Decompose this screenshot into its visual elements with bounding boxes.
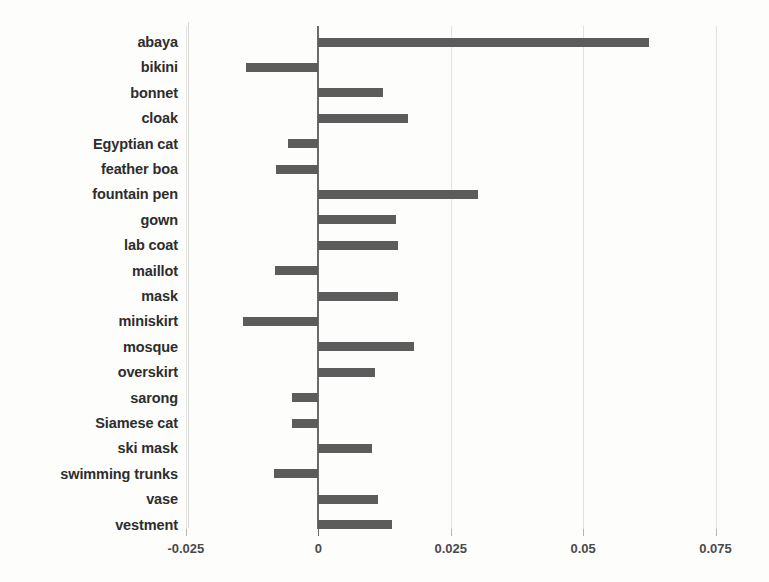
- x-tick-mark: [318, 529, 319, 536]
- bar: [275, 266, 318, 275]
- bar: [318, 444, 372, 453]
- gridline: [716, 26, 717, 529]
- x-tick-label: 0.025: [434, 541, 467, 556]
- category-label: maillot: [0, 264, 178, 279]
- gridline: [583, 26, 584, 529]
- category-label: vase: [0, 492, 178, 507]
- x-tick-mark: [186, 529, 187, 536]
- category-label: lab coat: [0, 238, 178, 253]
- bar: [243, 317, 318, 326]
- bar: [318, 114, 408, 123]
- bar: [318, 292, 397, 301]
- label-plot-divider: [188, 22, 189, 528]
- bar: [318, 88, 383, 97]
- bar: [318, 368, 375, 377]
- category-label: sarong: [0, 391, 178, 406]
- category-label: swimming trunks: [0, 467, 178, 482]
- category-label: abaya: [0, 35, 178, 50]
- gridline: [186, 26, 187, 529]
- bar: [318, 38, 649, 47]
- category-label: Siamese cat: [0, 416, 178, 431]
- gridline: [451, 26, 452, 529]
- bar: [246, 63, 319, 72]
- bar: [288, 139, 318, 148]
- category-label: overskirt: [0, 365, 178, 380]
- category-label: vestment: [0, 518, 178, 533]
- bar: [292, 419, 318, 428]
- category-label: bikini: [0, 60, 178, 75]
- x-tick-label: 0.075: [699, 541, 732, 556]
- bar: [318, 241, 398, 250]
- category-label: mosque: [0, 340, 178, 355]
- bar: [318, 520, 392, 529]
- category-label: gown: [0, 213, 178, 228]
- bar: [318, 215, 396, 224]
- bar: [318, 495, 378, 504]
- x-tick-label: 0: [315, 541, 322, 556]
- bar: [276, 165, 318, 174]
- category-label: cloak: [0, 111, 178, 126]
- category-label: miniskirt: [0, 314, 178, 329]
- category-label: Egyptian cat: [0, 137, 178, 152]
- zero-axis-line: [317, 26, 319, 529]
- x-tick-mark: [716, 529, 717, 536]
- category-axis-labels: abayabikinibonnetcloakEgyptian catfeathe…: [0, 0, 178, 582]
- x-tick-label: 0.05: [570, 541, 595, 556]
- x-tick-mark: [451, 529, 452, 536]
- bar: [274, 469, 318, 478]
- category-label: mask: [0, 289, 178, 304]
- horizontal-bar-chart: -0.02500.0250.050.075 abayabikinibonnetc…: [0, 0, 769, 582]
- bar: [318, 190, 477, 199]
- category-label: feather boa: [0, 162, 178, 177]
- category-label: bonnet: [0, 86, 178, 101]
- bar: [292, 393, 318, 402]
- x-tick-mark: [583, 529, 584, 536]
- bar: [318, 342, 414, 351]
- category-label: fountain pen: [0, 187, 178, 202]
- category-label: ski mask: [0, 441, 178, 456]
